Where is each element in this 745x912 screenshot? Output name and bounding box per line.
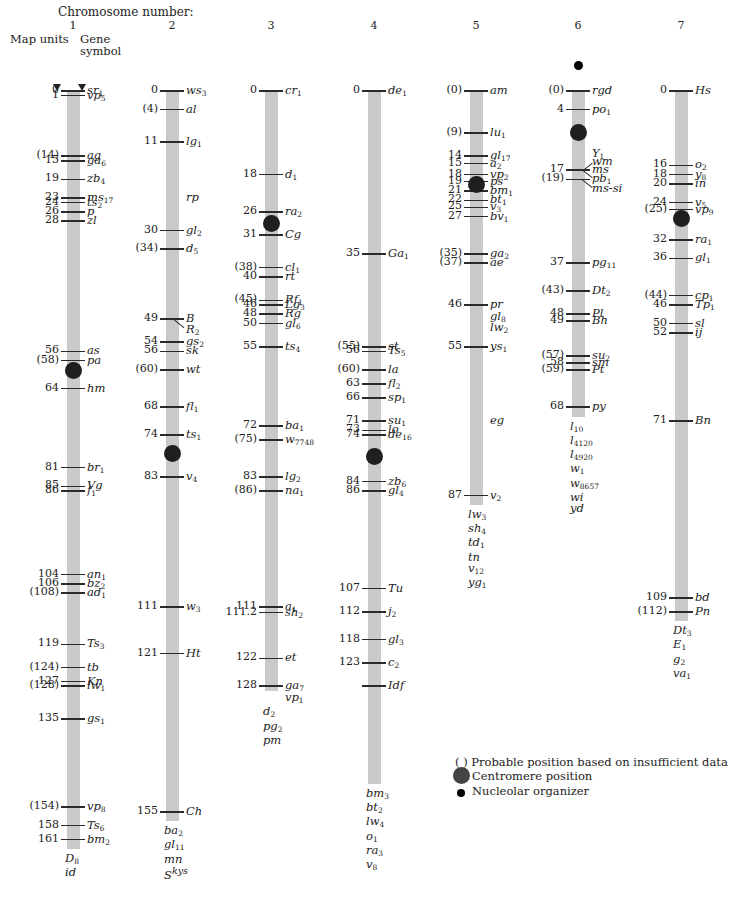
- chromosome-bar-5[interactable]: [470, 91, 483, 505]
- gene-symbol[interactable]: gs1: [87, 712, 105, 728]
- map-position: 71: [617, 414, 667, 426]
- locus-tick: [160, 606, 184, 608]
- gene-symbol[interactable]: et: [285, 651, 296, 663]
- unmapped-genes-list: bm3bt2lw4o1ra3v8: [366, 788, 389, 874]
- gene-symbol[interactable]: gl1: [695, 251, 711, 267]
- gene-symbol[interactable]: wt: [186, 363, 200, 375]
- gene-symbol[interactable]: Skys: [164, 865, 188, 881]
- gene-symbol[interactable]: id: [65, 867, 79, 878]
- gene-symbol[interactable]: sp1: [388, 391, 406, 407]
- gene-symbol[interactable]: l10: [570, 421, 599, 435]
- gene-symbol[interactable]: d1: [285, 168, 297, 184]
- gene-symbol[interactable]: Cg: [285, 228, 301, 240]
- gene-symbol[interactable]: lg1: [186, 135, 202, 151]
- gene-symbol[interactable]: eg: [490, 414, 504, 426]
- gene-symbol[interactable]: ga6: [87, 154, 106, 170]
- gene-symbol[interactable]: rgd: [592, 84, 612, 96]
- gene-symbol[interactable]: ts4: [285, 340, 300, 356]
- gene-symbol[interactable]: al: [186, 103, 197, 115]
- gene-symbol[interactable]: ra2: [285, 205, 302, 221]
- gene-symbol[interactable]: mn: [164, 854, 188, 865]
- gene-symbol[interactable]: la: [388, 363, 399, 375]
- gene-symbol[interactable]: ij: [695, 326, 702, 338]
- gene-symbol[interactable]: Bh: [592, 314, 608, 326]
- gene-symbol[interactable]: tb: [87, 661, 99, 673]
- gene-symbol[interactable]: br1: [87, 461, 105, 477]
- gene-symbol[interactable]: bm2: [87, 833, 110, 849]
- gene-symbol[interactable]: rt: [285, 270, 295, 282]
- gene-symbol[interactable]: Ht: [186, 647, 201, 659]
- gene-symbol[interactable]: v2: [490, 489, 501, 505]
- gene-symbol[interactable]: ad1: [87, 586, 106, 602]
- gene-symbol[interactable]: rp: [186, 191, 199, 203]
- chromosome-bar-3[interactable]: [265, 91, 278, 691]
- gene-symbol[interactable]: zl: [87, 214, 97, 226]
- gene-symbol[interactable]: ra1: [695, 233, 712, 249]
- gene-symbol[interactable]: Tp1: [695, 298, 715, 314]
- gene-symbol[interactable]: in: [695, 177, 706, 189]
- chromosome-bar-4[interactable]: [368, 91, 381, 784]
- gene-symbol[interactable]: Ch: [186, 805, 202, 817]
- gene-symbol[interactable]: l4120: [570, 435, 599, 449]
- gene-symbol[interactable]: de1: [388, 84, 407, 100]
- gene-symbol[interactable]: Ts5: [388, 344, 406, 360]
- chromosome-bar-7[interactable]: [675, 91, 688, 621]
- gene-symbol[interactable]: Bn: [695, 414, 711, 426]
- gene-symbol[interactable]: lu1: [490, 126, 506, 142]
- gene-symbol[interactable]: gl6: [285, 317, 301, 333]
- gene-symbol[interactable]: Tu: [388, 582, 403, 594]
- gene-symbol[interactable]: Hs: [695, 84, 711, 96]
- locus-tick: [259, 346, 283, 348]
- gene-symbol[interactable]: hm: [87, 382, 105, 394]
- gene-symbol[interactable]: po1: [592, 103, 611, 119]
- gene-symbol[interactable]: vp9: [695, 203, 714, 219]
- gene-symbol[interactable]: zb4: [87, 172, 105, 188]
- chromosome-bar-1[interactable]: [67, 91, 80, 849]
- gene-symbol[interactable]: ts1: [186, 428, 201, 444]
- gene-symbol[interactable]: bv1: [490, 210, 509, 226]
- gene-symbol[interactable]: j2: [388, 605, 396, 621]
- locus-tick: [566, 179, 590, 181]
- gene-symbol[interactable]: vp1: [285, 692, 304, 706]
- gene-symbol[interactable]: sk: [186, 344, 199, 356]
- gene-symbol[interactable]: gl2: [186, 224, 202, 240]
- gene-symbol[interactable]: v8: [366, 859, 389, 873]
- gene-symbol[interactable]: yd: [570, 503, 599, 514]
- gene-symbol[interactable]: ws3: [186, 84, 207, 100]
- gene-symbol[interactable]: Ts3: [87, 637, 105, 653]
- gene-symbol[interactable]: pm: [263, 735, 304, 746]
- gene-symbol[interactable]: lw2: [490, 321, 508, 337]
- gene-symbol[interactable]: bd: [695, 591, 710, 603]
- gene-symbol[interactable]: vp8: [87, 800, 106, 816]
- gene-symbol[interactable]: c2: [388, 656, 399, 672]
- gene-symbol[interactable]: na1: [285, 484, 304, 500]
- gene-symbol[interactable]: fl1: [186, 400, 198, 416]
- gene-symbol[interactable]: v4: [186, 470, 197, 486]
- gene-symbol[interactable]: Ga1: [388, 247, 409, 263]
- locus-tick: [566, 313, 590, 315]
- gene-symbol[interactable]: Idf: [388, 679, 404, 691]
- gene-symbol[interactable]: pg11: [592, 256, 616, 272]
- gene-symbol[interactable]: lw1: [87, 679, 105, 695]
- gene-symbol[interactable]: w3: [186, 600, 201, 616]
- gene-symbol[interactable]: vp5: [87, 89, 106, 105]
- gene-symbol[interactable]: Dt2: [592, 284, 611, 300]
- gene-symbol[interactable]: Pt: [592, 363, 604, 375]
- gene-symbol[interactable]: py: [592, 400, 606, 412]
- gene-symbol[interactable]: sh2: [285, 606, 303, 622]
- gene-symbol[interactable]: va1: [673, 668, 692, 682]
- gene-symbol[interactable]: f1: [87, 484, 96, 500]
- gene-symbol[interactable]: yg1: [468, 577, 487, 591]
- gene-symbol[interactable]: ys1: [490, 340, 507, 356]
- gene-symbol[interactable]: gl3: [388, 633, 404, 649]
- gene-symbol[interactable]: d5: [186, 242, 198, 258]
- gene-symbol[interactable]: de16: [388, 428, 412, 444]
- gene-symbol[interactable]: gl4: [388, 484, 404, 500]
- gene-symbol[interactable]: am: [490, 84, 508, 96]
- legend-centromere-label: Centromere position: [472, 769, 592, 783]
- map-position: (43): [514, 284, 564, 296]
- gene-symbol[interactable]: ae: [490, 256, 504, 268]
- gene-symbol[interactable]: cr1: [285, 84, 302, 100]
- gene-symbol[interactable]: pa: [87, 354, 101, 366]
- gene-symbol[interactable]: Pn: [695, 605, 710, 617]
